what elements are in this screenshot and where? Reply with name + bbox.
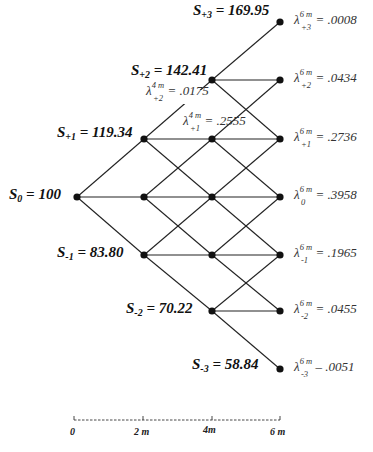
- lambda-6m-minus2-label: λ6 m-2 = .0455: [294, 301, 357, 317]
- stock-price-label-minus1: S-1 = 83.80: [57, 244, 124, 262]
- lambda-4m-plus2-label: λ4 m+2 = .0175: [146, 83, 209, 99]
- lambda-6m-plus2-label: λ6 m+2 = .0434: [294, 70, 357, 86]
- axis-tick-6m: 6 m: [270, 426, 285, 437]
- lambda-6m-minus1-label: λ6 m-1 = .1965: [294, 245, 357, 261]
- stock-price-label-plus1: S+1 = 119.34: [57, 124, 133, 142]
- axis-tick-0: 0: [70, 426, 75, 437]
- stock-price-label-plus2: S+2 = 142.41: [131, 62, 207, 80]
- lambda-6m-plus3-label: λ6 m+3 = .0008: [294, 12, 357, 28]
- lambda-6m-minus3-label: λ6 m-3 – .0051: [294, 359, 354, 375]
- stock-price-label-minus2: S-2 = 70.22: [126, 300, 193, 318]
- stock-price-label-0: S0 = 100: [9, 186, 61, 204]
- axis-tick-2m: 2 m: [134, 426, 149, 437]
- axis-tick-4m: 4m: [203, 424, 216, 435]
- lambda-6m-plus1-label: λ6 m+1 = .2736: [294, 129, 357, 145]
- time-axis: [74, 416, 280, 420]
- stock-price-label-minus3: S-3 = 58.84: [192, 356, 259, 374]
- lambda-4m-plus1-label: λ4 m+1 = .2555: [183, 113, 246, 129]
- stock-price-label-plus3: S+3 = 169.95: [193, 2, 269, 20]
- lambda-6m-0-label: λ6 m0 = .3958: [294, 187, 357, 203]
